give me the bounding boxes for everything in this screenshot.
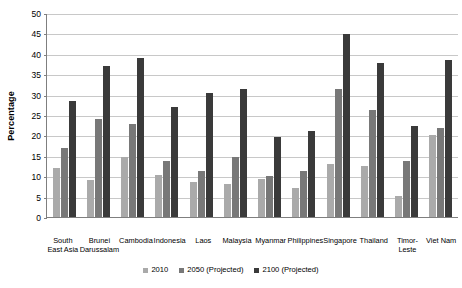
bar [395, 196, 402, 217]
bar [403, 161, 410, 217]
bar-group [47, 14, 81, 217]
bar [266, 176, 273, 217]
y-axis-tick: 45 [32, 30, 41, 39]
bar [163, 161, 170, 217]
bar [411, 126, 418, 217]
y-axis-tickmark [44, 218, 47, 219]
y-axis-tick: 5 [36, 193, 41, 202]
x-axis-category-labels: South East AsiaBrunei DarussalamCambodia… [46, 234, 458, 262]
legend-item[interactable]: 2010 [143, 266, 168, 274]
x-axis-category-label: Thailand [357, 234, 391, 262]
y-axis-tick: 40 [32, 51, 41, 60]
bar-group [287, 14, 321, 217]
bar [155, 175, 162, 217]
plot-area [46, 14, 458, 218]
legend-label: 2050 (Projected) [187, 266, 243, 274]
bar [137, 58, 144, 217]
plot-area-wrapper: 50454035302520151050 [22, 14, 458, 232]
bar [171, 107, 178, 217]
bar [369, 110, 376, 217]
x-axis-category-label: Malaysia [220, 234, 254, 262]
legend-item[interactable]: 2050 (Projected) [179, 266, 243, 274]
bar-group [321, 14, 355, 217]
y-axis-tick: 25 [32, 112, 41, 121]
bar-group [424, 14, 458, 217]
bar-chart: Percentage 50454035302520151050 South Ea… [0, 0, 462, 288]
bar [190, 182, 197, 217]
legend-label: 2100 (Projected) [262, 266, 318, 274]
legend-label: 2010 [151, 266, 168, 274]
y-axis-tick: 0 [36, 214, 41, 223]
y-axis-tick-labels: 50454035302520151050 [22, 14, 44, 218]
legend-swatch-icon [254, 268, 259, 273]
bar [292, 188, 299, 217]
y-axis-tick: 10 [32, 173, 41, 182]
bar [87, 180, 94, 217]
x-axis-category-label: Indonesia [153, 234, 187, 262]
bar-group [150, 14, 184, 217]
bar [53, 168, 60, 217]
bar [95, 119, 102, 217]
bar [437, 128, 444, 217]
bar [308, 131, 315, 217]
bar-group [116, 14, 150, 217]
x-axis-category-label: Philippines [287, 234, 323, 262]
bar [198, 171, 205, 218]
bar [377, 63, 384, 217]
bar [232, 157, 239, 217]
y-axis-tick: 20 [32, 132, 41, 141]
y-axis-tick: 50 [32, 10, 41, 19]
bar-group [218, 14, 252, 217]
y-axis-tick: 35 [32, 71, 41, 80]
bar [274, 137, 281, 217]
bar-group [253, 14, 287, 217]
bar [445, 60, 452, 217]
bar-group [390, 14, 424, 217]
bar-group [355, 14, 389, 217]
x-axis-category-label: Singapore [323, 234, 357, 262]
bar [361, 166, 368, 217]
bar-group [184, 14, 218, 217]
bar-group [81, 14, 115, 217]
x-axis-category-label: Laos [186, 234, 220, 262]
chart-legend: 20102050 (Projected)2100 (Projected) [0, 266, 462, 274]
x-axis-category-label: Timor-Leste [391, 234, 425, 262]
bar [240, 89, 247, 217]
bar [335, 89, 342, 217]
bar [121, 157, 128, 217]
x-axis-category-label: South East Asia [46, 234, 80, 262]
bar [300, 171, 307, 217]
bar [206, 93, 213, 217]
bars-layer [47, 14, 458, 217]
bar [429, 135, 436, 217]
y-axis-tick: 30 [32, 91, 41, 100]
bar [61, 148, 68, 217]
bar [327, 164, 334, 217]
legend-swatch-icon [179, 268, 184, 273]
y-axis-title-label: Percentage [6, 91, 16, 141]
y-axis-title: Percentage [0, 0, 22, 232]
x-axis-category-label: Myanmar [254, 234, 288, 262]
bar [258, 179, 265, 217]
bar [103, 66, 110, 217]
x-axis-category-label: Viet Nam [424, 234, 458, 262]
bar [129, 124, 136, 217]
legend-item[interactable]: 2100 (Projected) [254, 266, 318, 274]
bar [69, 101, 76, 217]
bar [343, 34, 350, 217]
y-axis-tick: 15 [32, 153, 41, 162]
legend-swatch-icon [143, 268, 148, 273]
x-axis-category-label: Brunei Darussalam [80, 234, 119, 262]
bar [224, 184, 231, 217]
x-axis-category-label: Cambodia [119, 234, 153, 262]
